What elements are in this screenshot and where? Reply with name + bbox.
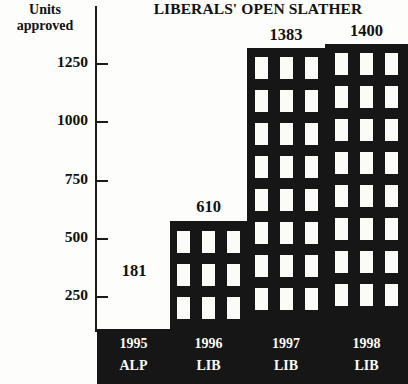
window	[280, 222, 293, 244]
y-tick-label-1250: 1250	[0, 53, 88, 71]
window	[177, 297, 190, 319]
category-year: 1996	[170, 332, 247, 351]
window-row	[325, 251, 408, 273]
window	[385, 119, 398, 141]
window	[335, 284, 348, 306]
window	[305, 57, 318, 79]
window-row	[170, 297, 247, 319]
category-1995: 1995 ALP	[97, 332, 170, 384]
window	[280, 288, 293, 310]
window	[335, 218, 348, 240]
bar-value-1998: 1400	[325, 21, 408, 41]
window	[305, 288, 318, 310]
window	[385, 185, 398, 207]
category-party: LIB	[170, 351, 247, 373]
bar-1996[interactable]	[170, 221, 247, 332]
window	[177, 264, 190, 286]
y-axis-title-line1: Units	[2, 2, 88, 18]
window	[360, 185, 373, 207]
category-year: 1997	[247, 332, 325, 351]
window	[360, 53, 373, 75]
window-row	[325, 86, 408, 108]
window-row	[325, 185, 408, 207]
window	[360, 119, 373, 141]
window	[255, 57, 268, 79]
window-row	[247, 156, 325, 178]
y-tick-label-1000: 1000	[0, 111, 88, 129]
window	[255, 189, 268, 211]
window	[227, 264, 240, 286]
window	[335, 251, 348, 273]
window-row	[170, 231, 247, 253]
window	[305, 90, 318, 112]
window	[335, 86, 348, 108]
window-row	[247, 222, 325, 244]
window-row	[247, 189, 325, 211]
window	[202, 297, 215, 319]
window	[305, 123, 318, 145]
window	[280, 255, 293, 277]
window	[202, 264, 215, 286]
y-tick-label-250: 250	[0, 286, 88, 304]
window	[280, 156, 293, 178]
window	[177, 231, 190, 253]
window-row	[247, 90, 325, 112]
window-row	[247, 288, 325, 310]
category-1997: 1997 LIB	[247, 332, 325, 384]
category-1996: 1996 LIB	[170, 332, 247, 384]
window	[227, 297, 240, 319]
window-row	[170, 264, 247, 286]
window-row	[247, 57, 325, 79]
window	[360, 218, 373, 240]
category-year: 1995	[97, 332, 170, 351]
bar-value-1995: 181	[101, 261, 167, 281]
plot-area: 181 610 1383	[97, 6, 408, 332]
category-1998: 1998 LIB	[325, 332, 408, 384]
window	[305, 156, 318, 178]
category-party: LIB	[325, 351, 408, 373]
window	[255, 90, 268, 112]
window	[385, 53, 398, 75]
window	[360, 152, 373, 174]
bar-1998[interactable]	[325, 44, 408, 332]
window	[305, 189, 318, 211]
window	[255, 222, 268, 244]
window	[335, 119, 348, 141]
window	[385, 152, 398, 174]
window	[335, 185, 348, 207]
window-row	[325, 152, 408, 174]
category-party: LIB	[247, 351, 325, 373]
window-row	[247, 123, 325, 145]
window	[280, 57, 293, 79]
window	[255, 156, 268, 178]
window	[385, 218, 398, 240]
window	[280, 90, 293, 112]
category-party: ALP	[97, 351, 170, 373]
y-tick-label-500: 500	[0, 228, 88, 246]
window-row	[325, 53, 408, 75]
window	[255, 123, 268, 145]
window	[360, 251, 373, 273]
window	[360, 284, 373, 306]
window-row	[325, 284, 408, 306]
window	[385, 86, 398, 108]
window	[335, 53, 348, 75]
window	[305, 222, 318, 244]
window	[360, 86, 373, 108]
bar-value-1996: 610	[170, 197, 247, 217]
window	[227, 231, 240, 253]
chart-root: LIBERALS' OPEN SLATHER Units approved 12…	[0, 0, 408, 384]
window	[202, 231, 215, 253]
window	[255, 255, 268, 277]
bar-1997[interactable]	[247, 48, 325, 332]
window	[385, 284, 398, 306]
y-axis-title-line2: approved	[2, 18, 88, 34]
window	[335, 152, 348, 174]
category-label-band: 1995 ALP 1996 LIB 1997 LIB 1998 LIB	[97, 332, 408, 384]
window-row	[247, 255, 325, 277]
bar-value-1997: 1383	[247, 25, 325, 45]
window-row	[325, 119, 408, 141]
window	[385, 251, 398, 273]
y-tick-label-750: 750	[0, 170, 88, 188]
window	[305, 255, 318, 277]
